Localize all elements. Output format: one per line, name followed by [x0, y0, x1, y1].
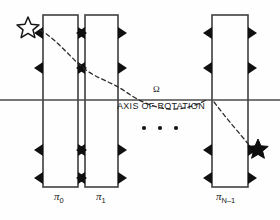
- plate-0-body: [43, 15, 78, 187]
- triangle-marker: [118, 62, 127, 74]
- triangle-marker: [248, 172, 257, 184]
- ray-segment-lower: [214, 102, 250, 146]
- filled-star-icon: [248, 139, 268, 158]
- omega-symbol: Ω: [153, 84, 160, 94]
- plate-label-n-1: πN–1: [216, 190, 235, 205]
- triangle-marker: [203, 62, 212, 74]
- triangle-marker: [248, 27, 257, 39]
- plate-label-0: π0: [54, 190, 64, 205]
- axis-of-rotation-label: AXIS OF ROTATION: [117, 101, 205, 111]
- plate-label-1-sub: 1: [102, 196, 106, 205]
- plate-n-1-body: [212, 15, 248, 187]
- triangle-marker: [34, 172, 43, 184]
- diagram-canvas: Ω AXIS OF ROTATION π0 π1 πN–1: [0, 0, 280, 220]
- triangle-marker: [34, 62, 43, 74]
- triangle-marker: [118, 144, 127, 156]
- triangle-marker: [203, 144, 212, 156]
- triangle-marker: [203, 172, 212, 184]
- plate-label-n-1-sub: N–1: [222, 196, 236, 205]
- triangle-marker: [248, 62, 257, 74]
- hollow-star-icon: [17, 17, 39, 38]
- triangle-marker: [118, 172, 127, 184]
- ellipsis-dots: [142, 126, 178, 130]
- ellipsis-dot: [158, 126, 162, 130]
- plate-1-body: [85, 15, 118, 187]
- triangle-marker: [203, 27, 212, 39]
- plate-label-1: π1: [96, 190, 106, 205]
- triangle-marker: [34, 144, 43, 156]
- triangle-marker: [118, 27, 127, 39]
- ellipsis-dot: [142, 126, 146, 130]
- ellipsis-dot: [174, 126, 178, 130]
- plate-label-0-sub: 0: [60, 196, 64, 205]
